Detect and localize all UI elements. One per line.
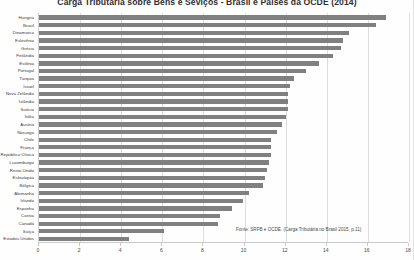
x-tick-label: 18 bbox=[405, 247, 411, 253]
bar bbox=[39, 61, 319, 65]
bar bbox=[39, 31, 349, 35]
bar bbox=[39, 229, 164, 233]
x-tick-label: 14 bbox=[323, 247, 329, 253]
gridline bbox=[409, 13, 410, 242]
bar bbox=[39, 130, 277, 134]
bar bbox=[39, 153, 271, 157]
x-tick-label: 8 bbox=[201, 247, 204, 253]
x-tick-label: 10 bbox=[241, 247, 247, 253]
bar bbox=[39, 38, 343, 42]
x-tick-label: 4 bbox=[119, 247, 122, 253]
category-axis-labels: HungriaBrasilDinamarcaEslovêniaGréciaFin… bbox=[0, 13, 36, 242]
bar bbox=[39, 168, 267, 172]
x-tick bbox=[161, 243, 162, 246]
bar bbox=[39, 99, 288, 103]
x-tick-label: 0 bbox=[37, 247, 40, 253]
bar bbox=[39, 92, 288, 96]
x-tick bbox=[79, 243, 80, 246]
bar bbox=[39, 160, 269, 164]
bar bbox=[39, 237, 129, 241]
x-tick bbox=[285, 243, 286, 246]
bar bbox=[39, 122, 282, 126]
bar bbox=[39, 183, 263, 187]
x-tick bbox=[38, 243, 39, 246]
bar bbox=[39, 107, 288, 111]
x-tick-label: 16 bbox=[364, 247, 370, 253]
x-axis: 024681012141618 bbox=[38, 242, 408, 245]
x-tick bbox=[120, 243, 121, 246]
category-label: Estados Unidos bbox=[3, 234, 34, 243]
x-tick bbox=[202, 243, 203, 246]
bar bbox=[39, 84, 290, 88]
x-tick bbox=[408, 243, 409, 246]
bar bbox=[39, 176, 265, 180]
x-tick-label: 6 bbox=[160, 247, 163, 253]
x-tick-label: 2 bbox=[78, 247, 81, 253]
x-tick-label: 12 bbox=[282, 247, 288, 253]
bar bbox=[39, 191, 249, 195]
source-note: Fonte: SRFB e OCDE. (Carga Tributária no… bbox=[236, 227, 361, 232]
bar bbox=[39, 206, 232, 210]
chart-container: Carga Tributária sobre Bens e Seviços - … bbox=[0, 0, 414, 260]
bar bbox=[39, 69, 306, 73]
bar bbox=[39, 115, 286, 119]
x-tick bbox=[367, 243, 368, 246]
bar bbox=[39, 54, 333, 58]
bar bbox=[39, 138, 271, 142]
bar bbox=[39, 46, 341, 50]
x-tick bbox=[244, 243, 245, 246]
bar bbox=[39, 23, 376, 27]
bar bbox=[39, 15, 386, 19]
bar bbox=[39, 76, 294, 80]
bar-series bbox=[39, 13, 408, 242]
bar bbox=[39, 214, 220, 218]
bar bbox=[39, 145, 271, 149]
bar bbox=[39, 199, 243, 203]
bar bbox=[39, 222, 218, 226]
chart-title: Carga Tributária sobre Bens e Seviços - … bbox=[0, 0, 414, 8]
x-tick bbox=[326, 243, 327, 246]
plot-area bbox=[38, 13, 408, 242]
